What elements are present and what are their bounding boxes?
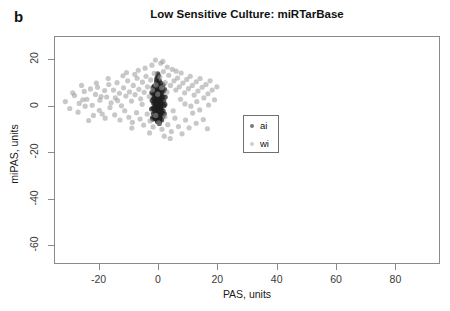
x-axis-title: PAS, units <box>54 288 440 300</box>
x-tick-label: 40 <box>271 273 283 285</box>
x-tick-label: 60 <box>330 273 342 285</box>
legend-entry-ai[interactable]: ai <box>244 116 278 135</box>
y-axis-title: miPAS, units <box>8 124 20 183</box>
legend-label: ai <box>260 120 267 131</box>
y-tick-mark <box>48 199 54 200</box>
y-tick-label: -60 <box>28 234 40 254</box>
x-tick-mark <box>99 264 100 270</box>
x-tick-mark <box>277 264 278 270</box>
legend-marker-icon <box>250 124 254 128</box>
y-tick-mark <box>48 106 54 107</box>
x-tick-mark <box>395 264 396 270</box>
y-tick-label: 0 <box>28 95 40 115</box>
y-tick-label: -20 <box>28 141 40 161</box>
y-tick-mark <box>48 59 54 60</box>
chart-title: Low Sensitive Culture: miRTarBase <box>54 8 440 20</box>
x-tick-mark <box>217 264 218 270</box>
x-tick-mark <box>336 264 337 270</box>
x-tick-label: 0 <box>155 273 161 285</box>
legend-marker-icon <box>250 142 254 146</box>
x-tick-label: 20 <box>211 273 223 285</box>
x-tick-mark <box>158 264 159 270</box>
legend[interactable]: ai wi <box>243 115 279 153</box>
x-tick-label: 80 <box>390 273 402 285</box>
plot-area: ai wi <box>54 36 440 264</box>
x-tick-label: -20 <box>91 273 106 285</box>
figure-panel: b Low Sensitive Culture: miRTarBase miPA… <box>0 0 450 311</box>
scatter-series-wi <box>63 57 220 141</box>
panel-label: b <box>14 8 23 25</box>
legend-label: wi <box>260 138 269 149</box>
y-tick-mark <box>48 152 54 153</box>
legend-entry-wi[interactable]: wi <box>244 134 278 153</box>
y-tick-label: 20 <box>28 48 40 68</box>
y-tick-label: -40 <box>28 188 40 208</box>
y-tick-mark <box>48 245 54 246</box>
